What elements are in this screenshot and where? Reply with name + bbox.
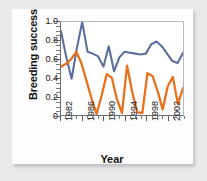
y-minor-tick-mark bbox=[56, 50, 60, 51]
y-minor-tick-mark bbox=[56, 31, 60, 32]
y-axis-tick-labels: 1.00.80.60.40.20 bbox=[36, 21, 58, 116]
x-minor-tick-mark bbox=[87, 116, 88, 119]
figure-card: Breeding success 1.00.80.60.40.20 198219… bbox=[12, 9, 193, 164]
y-tick-mark bbox=[54, 78, 60, 79]
x-minor-tick-mark bbox=[173, 116, 174, 119]
x-minor-tick-mark bbox=[119, 116, 120, 119]
x-minor-tick-mark bbox=[71, 116, 72, 119]
figure-root: Breeding success 1.00.80.60.40.20 198219… bbox=[0, 0, 207, 181]
x-axis-title: Year bbox=[52, 153, 172, 165]
y-minor-tick-mark bbox=[56, 92, 60, 93]
y-minor-tick-mark bbox=[56, 88, 60, 89]
plot-svg bbox=[61, 22, 183, 115]
x-axis-tick-labels: 198219861990199419982002 bbox=[60, 121, 184, 153]
x-minor-tick-mark bbox=[162, 116, 163, 119]
x-minor-tick-mark bbox=[65, 116, 66, 119]
y-minor-tick-mark bbox=[56, 26, 60, 27]
x-minor-tick-mark bbox=[152, 116, 153, 119]
series-line-blue bbox=[61, 22, 183, 79]
x-minor-tick-mark bbox=[179, 116, 180, 119]
y-minor-tick-mark bbox=[56, 45, 60, 46]
y-minor-tick-mark bbox=[56, 83, 60, 84]
x-tick-mark bbox=[60, 116, 61, 121]
plot-area bbox=[60, 21, 184, 116]
x-minor-tick-mark bbox=[98, 116, 99, 119]
x-tick-mark bbox=[125, 116, 126, 121]
x-minor-tick-mark bbox=[157, 116, 158, 119]
y-tick-mark bbox=[54, 40, 60, 41]
y-minor-tick-mark bbox=[56, 69, 60, 70]
y-minor-tick-mark bbox=[56, 54, 60, 55]
y-minor-tick-mark bbox=[56, 64, 60, 65]
y-minor-tick-mark bbox=[56, 35, 60, 36]
x-tick-mark bbox=[103, 116, 104, 121]
y-minor-tick-mark bbox=[56, 102, 60, 103]
y-tick-mark bbox=[54, 97, 60, 98]
y-minor-tick-mark bbox=[56, 107, 60, 108]
y-minor-tick-mark bbox=[56, 111, 60, 112]
x-minor-tick-mark bbox=[76, 116, 77, 119]
y-tick-mark bbox=[54, 21, 60, 22]
y-tick-mark bbox=[54, 59, 60, 60]
y-minor-tick-mark bbox=[56, 73, 60, 74]
x-minor-tick-mark bbox=[135, 116, 136, 119]
x-tick-mark bbox=[82, 116, 83, 121]
x-minor-tick-mark bbox=[141, 116, 142, 119]
x-minor-tick-mark bbox=[130, 116, 131, 119]
x-tick-mark bbox=[146, 116, 147, 121]
series-line-orange bbox=[61, 52, 183, 114]
x-minor-tick-mark bbox=[92, 116, 93, 119]
x-minor-tick-mark bbox=[114, 116, 115, 119]
x-minor-tick-mark bbox=[109, 116, 110, 119]
x-minor-tick-mark bbox=[184, 116, 185, 119]
x-tick-mark bbox=[168, 116, 169, 121]
